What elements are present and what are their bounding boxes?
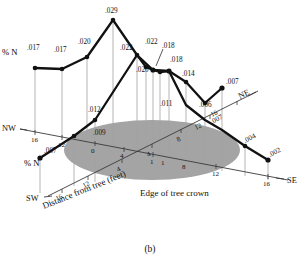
value-label: .009 bbox=[93, 129, 106, 137]
callout-leaders bbox=[156, 49, 163, 66]
tick-label-nw-12: 12 bbox=[58, 141, 66, 149]
vertical-axis-label-2: % N bbox=[24, 158, 40, 168]
value-label: .018 bbox=[162, 42, 175, 50]
axis-label-se: SE bbox=[287, 176, 297, 185]
data-point bbox=[72, 134, 77, 139]
value-label: .006 bbox=[199, 101, 212, 109]
data-point bbox=[150, 67, 155, 72]
value-label: .007 bbox=[226, 78, 239, 86]
tick-label-se-1a: 1 bbox=[150, 158, 154, 166]
figure-caption: (b) bbox=[144, 244, 155, 255]
tick-label-se-1b: 1 bbox=[161, 159, 165, 167]
value-label: .029 bbox=[105, 7, 118, 15]
value-label: .022 bbox=[120, 44, 133, 52]
data-point bbox=[60, 67, 65, 72]
tick-label-se-8: 8 bbox=[182, 163, 186, 171]
tick-label-se-16: 16 bbox=[263, 180, 271, 188]
value-label: .002 bbox=[267, 146, 282, 159]
data-point bbox=[93, 118, 98, 123]
data-point bbox=[219, 85, 224, 90]
value-label: .017 bbox=[27, 44, 40, 52]
value-label: .022 bbox=[145, 38, 158, 46]
tick-label-center-0: 0 bbox=[91, 147, 95, 155]
series-nw-se-line bbox=[35, 20, 222, 103]
se-leader bbox=[276, 178, 284, 179]
nw-leader bbox=[20, 129, 27, 130]
tick-label-se-4: 4 bbox=[120, 152, 124, 160]
data-point bbox=[85, 55, 90, 60]
crown-annotation: Edge of tree crown bbox=[140, 188, 209, 198]
callout-leader bbox=[156, 49, 163, 66]
data-point bbox=[158, 70, 163, 75]
three-d-surface-chart: .017 .017 .020 .029 .022 .022 .020 .018 … bbox=[0, 0, 307, 262]
axis-label-ne: NE bbox=[237, 88, 251, 101]
axis-label-nw: NW bbox=[2, 124, 16, 133]
value-label: .020 bbox=[78, 38, 91, 46]
value-label: .007 bbox=[44, 147, 57, 155]
value-label: .020 bbox=[136, 66, 149, 74]
data-point bbox=[33, 66, 38, 71]
value-label: .011 bbox=[160, 100, 173, 108]
data-point bbox=[184, 80, 189, 85]
value-label: .018 bbox=[170, 56, 183, 64]
value-label: .004 bbox=[242, 132, 257, 145]
value-label: .012 bbox=[88, 106, 101, 114]
value-label: .014 bbox=[182, 70, 195, 78]
axis-label-sw: SW bbox=[26, 194, 39, 203]
data-point bbox=[166, 68, 171, 73]
tick-label-se-12: 12 bbox=[212, 170, 220, 178]
data-point bbox=[111, 18, 116, 23]
tick-label-nw-16: 16 bbox=[31, 136, 39, 144]
data-point bbox=[135, 53, 140, 58]
value-label: .017 bbox=[54, 46, 67, 54]
figure-container: .017 .017 .020 .029 .022 .022 .020 .018 … bbox=[0, 0, 307, 262]
distance-axis-title: Distance from tree (feet) bbox=[41, 168, 127, 211]
vertical-axis-label: % N bbox=[2, 47, 18, 57]
